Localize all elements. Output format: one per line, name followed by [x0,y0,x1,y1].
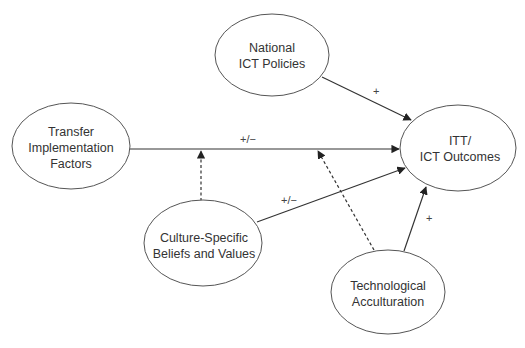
edge-technological-to-outcomes [404,187,426,251]
edge-culture-to-outcomes [257,168,405,222]
node-label: ITT/ [449,134,472,148]
node-label: ICT Policies [239,57,305,71]
node-label: Transfer [48,125,94,139]
edge-label-technological-to-outcomes: + [426,212,432,224]
node-itt-ict-outcomes: ITT/ ICT Outcomes [400,105,516,191]
node-label: Beliefs and Values [153,247,256,261]
conceptual-model-diagram: + +/− +/− + National ICT Policies Transf… [0,0,525,348]
node-label: Implementation [28,141,114,155]
node-transfer-implementation-factors: Transfer Implementation Factors [12,103,130,189]
node-ellipse [215,14,329,96]
edge-label-national-to-outcomes: + [373,85,379,97]
node-technological-acculturation: Technological Acculturation [331,250,445,334]
node-label: Factors [50,157,92,171]
node-national-ict-policies: National ICT Policies [215,14,329,96]
node-label: Culture-Specific [160,231,248,245]
edge-label-culture-to-outcomes: +/− [281,194,297,206]
node-label: Acculturation [352,295,424,309]
node-label: Technological [350,279,426,293]
edge-national-to-outcomes [322,77,411,120]
node-culture-specific-beliefs: Culture-Specific Beliefs and Values [144,200,262,286]
node-label: National [249,41,295,55]
node-ellipse [400,105,516,191]
node-label: ICT Outcomes [420,150,500,164]
edge-technological-moderates-transfer [318,151,374,250]
edge-label-transfer-to-outcomes: +/− [240,133,256,145]
